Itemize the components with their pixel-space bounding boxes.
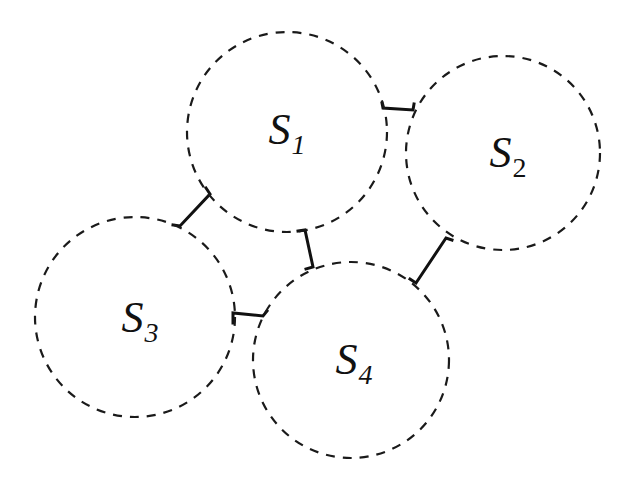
connectivity-diagram xyxy=(0,0,628,480)
node-label-base: S xyxy=(122,293,144,342)
node-label-base: S xyxy=(490,128,512,177)
node-label-base: S xyxy=(269,105,291,154)
node-label-subscript: 1 xyxy=(292,129,306,160)
node-label-s2: S2 xyxy=(490,131,527,175)
node-label-base: S xyxy=(336,335,358,384)
nodes-layer xyxy=(35,32,600,458)
connector-s2-s4 xyxy=(410,238,452,283)
connector-s1-s3 xyxy=(173,188,210,226)
node-label-s4: S4 xyxy=(336,338,373,382)
node-label-s3: S3 xyxy=(122,296,159,340)
node-label-s1: S1 xyxy=(269,108,306,152)
node-label-subscript: 4 xyxy=(359,359,373,390)
connector-s1-s2 xyxy=(382,103,414,110)
node-label-subscript: 3 xyxy=(145,317,159,348)
edges-layer xyxy=(173,103,452,323)
connector-s1-s4 xyxy=(298,230,313,269)
node-label-subscript: 2 xyxy=(513,152,527,183)
